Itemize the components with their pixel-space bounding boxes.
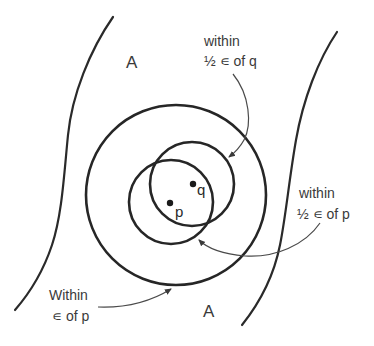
point-q-dot bbox=[190, 181, 196, 187]
region-a-top-label: A bbox=[126, 53, 138, 72]
annotation-half-eps-q-line1: within bbox=[203, 33, 240, 49]
annotation-half-eps-q-line2: ½ ∊ of q bbox=[204, 53, 257, 69]
arrow-to-eps-p bbox=[98, 289, 171, 307]
arrow-to-half-eps-q bbox=[229, 74, 249, 157]
epsilon-neighborhood-diagram: q p A A within ½ ∊ of q within ½ ∊ of p … bbox=[0, 0, 374, 346]
point-p-label: p bbox=[175, 203, 183, 220]
point-p-dot bbox=[167, 200, 173, 206]
point-q-label: q bbox=[197, 181, 205, 198]
left-boundary-curve bbox=[15, 17, 113, 310]
right-boundary-curve bbox=[242, 32, 337, 325]
annotation-eps-p-line2: ∊ of p bbox=[52, 308, 89, 324]
annotation-half-eps-p-line1: within bbox=[298, 185, 335, 201]
epsilon-ball-p bbox=[86, 105, 266, 285]
region-a-bottom-label: A bbox=[203, 302, 215, 321]
annotation-half-eps-p-line2: ½ ∊ of p bbox=[297, 206, 350, 222]
annotation-eps-p-line1: Within bbox=[49, 287, 88, 303]
